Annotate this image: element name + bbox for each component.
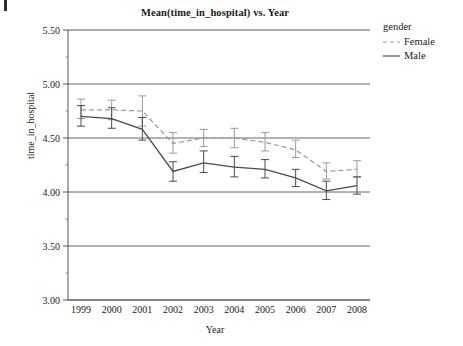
svg-text:5.50: 5.50 <box>43 25 61 36</box>
y-axis-label: time_in_hospital <box>25 66 36 186</box>
svg-text:2008: 2008 <box>347 304 367 315</box>
legend: gender Female Male <box>383 20 463 63</box>
svg-text:2003: 2003 <box>194 304 214 315</box>
svg-text:2002: 2002 <box>163 304 183 315</box>
svg-text:2005: 2005 <box>255 304 275 315</box>
legend-label-female: Female <box>404 35 435 49</box>
x-axis-label: Year <box>60 324 370 335</box>
svg-text:1999: 1999 <box>71 304 91 315</box>
series-female <box>77 96 361 179</box>
svg-text:3.50: 3.50 <box>43 241 61 252</box>
legend-label-male: Male <box>404 49 426 63</box>
svg-text:2006: 2006 <box>286 304 306 315</box>
svg-text:2000: 2000 <box>102 304 122 315</box>
legend-swatch-male-icon <box>383 51 400 61</box>
chart-canvas: Mean(time_in_hospital) vs. Year 3.003.50… <box>0 0 463 346</box>
legend-item-female[interactable]: Female <box>383 35 463 49</box>
y-tick-label-group: 3.003.504.004.505.005.50 <box>43 25 61 306</box>
x-tick-label-group: 1999200020012002200320042005200620072008 <box>71 304 367 315</box>
gridline-group <box>68 84 370 300</box>
series-male <box>77 106 361 200</box>
svg-text:4.00: 4.00 <box>43 187 61 198</box>
svg-text:2004: 2004 <box>224 304 244 315</box>
legend-title: gender <box>383 20 463 34</box>
svg-text:5.00: 5.00 <box>43 79 61 90</box>
legend-item-male[interactable]: Male <box>383 49 463 63</box>
legend-swatch-female-icon <box>383 37 400 47</box>
svg-text:3.00: 3.00 <box>43 295 61 306</box>
svg-text:4.50: 4.50 <box>43 133 61 144</box>
svg-text:2007: 2007 <box>316 304 336 315</box>
svg-text:2001: 2001 <box>132 304 152 315</box>
